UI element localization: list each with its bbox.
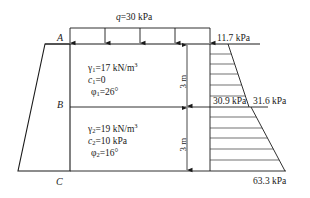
hatch-layer-2 bbox=[210, 117, 279, 160]
point-b-label: B bbox=[57, 100, 63, 110]
pressure-label-top: 11.7 kPa bbox=[217, 34, 250, 44]
surcharge-label: q=30 kPa bbox=[116, 13, 152, 23]
layer-2-friction-angle: φ2=16° bbox=[88, 148, 138, 160]
point-c-label: C bbox=[56, 177, 63, 187]
layer-2-properties: γ2=19 kN/m3 c2=10 kPa φ2=16° bbox=[88, 120, 138, 160]
layer-2-unit-weight: γ2=19 kN/m3 bbox=[88, 120, 138, 136]
layer-1-cohesion: c1=0 bbox=[88, 75, 138, 87]
hatch-layer-1 bbox=[210, 54, 245, 96]
surcharge-text: =30 kPa bbox=[121, 12, 152, 22]
layer-1-unit-weight: γ1=17 kN/m3 bbox=[88, 59, 138, 75]
dimension-label-layer-2: 3 m bbox=[179, 133, 188, 157]
pressure-label-b-upper: 30.9 kPa bbox=[213, 97, 246, 107]
layer-2-cohesion: c2=10 kPa bbox=[88, 136, 138, 148]
dimension-label-layer-1: 3 m bbox=[179, 70, 188, 94]
layer-1-friction-angle: φ1=26° bbox=[88, 87, 138, 99]
pressure-label-bottom: 63.3 kPa bbox=[253, 177, 286, 187]
surcharge-load bbox=[70, 28, 210, 43]
point-a-label: A bbox=[57, 33, 63, 43]
pressure-label-b-lower: 31.6 kPa bbox=[253, 97, 286, 107]
earth-pressure-diagram bbox=[210, 44, 285, 171]
layer-1-properties: γ1=17 kN/m3 c1=0 φ1=26° bbox=[88, 59, 138, 99]
pressure-slope-layer-2 bbox=[251, 107, 285, 171]
